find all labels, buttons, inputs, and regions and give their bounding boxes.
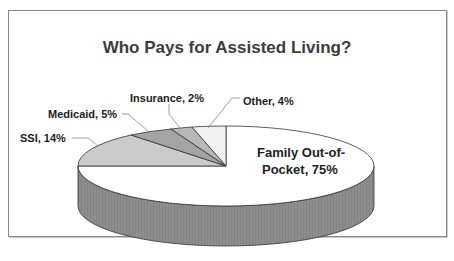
label-other: Other, 4% [243, 95, 294, 107]
pie-chart: SSI, 14% Medicaid, 5% Insurance, 2% Othe… [0, 0, 454, 261]
label-family-line2: Pocket, 75% [262, 162, 338, 177]
label-medicaid: Medicaid, 5% [48, 108, 117, 120]
leader-line-medicaid [122, 114, 148, 131]
leader-line-ssi [72, 138, 98, 146]
label-ssi: SSI, 14% [20, 132, 66, 144]
leader-line-insurance [169, 104, 180, 128]
label-family-line1: Family Out-of- [257, 145, 345, 160]
leader-line-other [208, 98, 240, 128]
label-insurance: Insurance, 2% [130, 92, 204, 104]
